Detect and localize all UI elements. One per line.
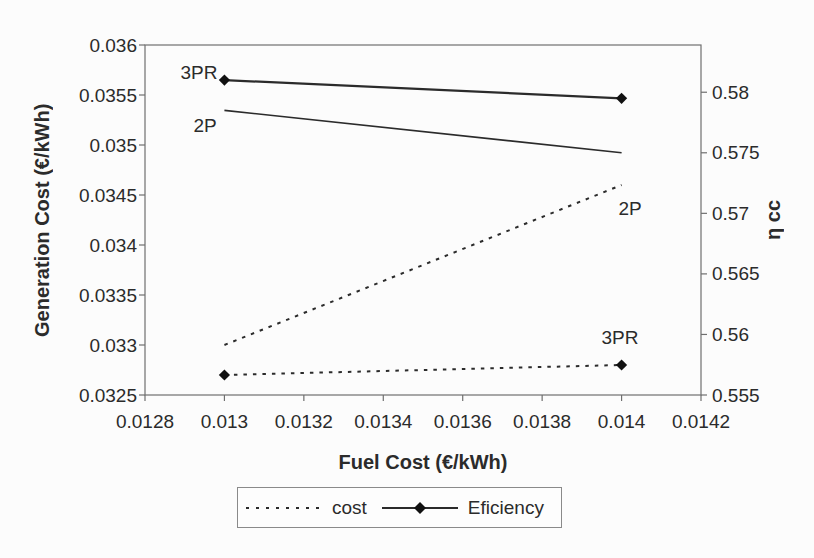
y-axis-title-left: Generation Cost (€/kWh) [26, 45, 58, 395]
legend: cost Eficiency [237, 487, 562, 528]
x-axis-tick-label: 0.0138 [513, 411, 571, 432]
x-axis-tick-label: 0.0128 [116, 411, 174, 432]
x-axis-title: Fuel Cost (€/kWh) [145, 451, 701, 474]
diamond-marker [616, 359, 627, 370]
right-axis-tick-label: 0.575 [712, 142, 760, 163]
series-line-eff-2P [224, 110, 621, 152]
series-annotation: 3PR [181, 62, 218, 83]
left-axis-tick-label: 0.036 [89, 35, 137, 56]
right-axis-tick-label: 0.565 [712, 263, 760, 284]
series-annotation: 3PR [602, 327, 639, 348]
legend-solid-diamond-line-icon [380, 500, 460, 516]
series-line-eff-3PR [224, 80, 621, 98]
series-line-cost-3PR [224, 365, 621, 375]
diamond-marker-icon [414, 502, 426, 514]
diamond-marker [219, 369, 230, 380]
diamond-marker [219, 75, 230, 86]
legend-cost-label: cost [332, 497, 367, 519]
series-line-cost-2P [224, 185, 621, 345]
plot-svg: 0.01280.0130.01320.01340.01360.01380.014… [0, 0, 814, 558]
right-axis-tick-label: 0.57 [712, 203, 749, 224]
left-axis-tick-label: 0.033 [89, 335, 137, 356]
left-axis-tick-label: 0.0325 [79, 385, 137, 406]
left-axis-tick-label: 0.0335 [79, 285, 137, 306]
legend-item-efficiency: Eficiency [380, 497, 544, 519]
x-axis-tick-label: 0.014 [598, 411, 646, 432]
diamond-marker [616, 93, 627, 104]
right-axis-tick-label: 0.56 [712, 324, 749, 345]
x-axis-tick-label: 0.0132 [275, 411, 333, 432]
right-axis-tick-label: 0.58 [712, 82, 749, 103]
legend-item-cost: cost [244, 497, 367, 519]
left-axis-tick-label: 0.0355 [79, 85, 137, 106]
series-annotation: 2P [618, 198, 641, 219]
x-axis-tick-label: 0.0142 [672, 411, 730, 432]
x-axis-tick-label: 0.013 [201, 411, 249, 432]
legend-efficiency-label: Eficiency [468, 497, 544, 519]
y-axis-title-right: η cc [756, 45, 790, 395]
x-axis-tick-label: 0.0136 [434, 411, 492, 432]
left-axis-tick-label: 0.035 [89, 135, 137, 156]
left-axis-tick-label: 0.034 [89, 235, 137, 256]
series-annotation: 2P [193, 115, 216, 136]
legend-dashed-line-icon [244, 502, 324, 514]
left-axis-tick-label: 0.0345 [79, 185, 137, 206]
x-axis-tick-label: 0.0134 [354, 411, 413, 432]
right-axis-tick-label: 0.555 [712, 385, 760, 406]
chart-figure: 0.01280.0130.01320.01340.01360.01380.014… [0, 0, 814, 558]
